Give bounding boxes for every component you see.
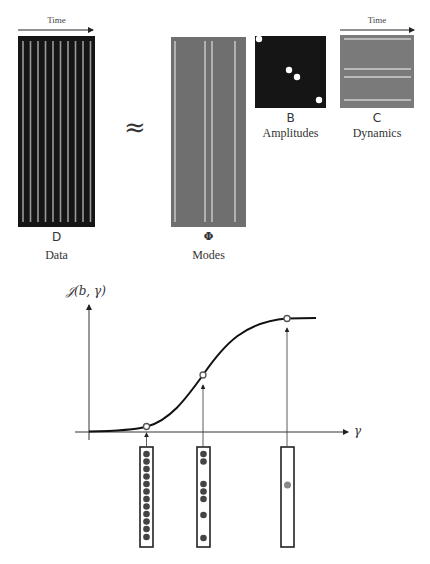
amplitude-vector-medium xyxy=(197,447,210,547)
amplitudes-caption: Amplitudes xyxy=(250,126,331,141)
y-axis-label: 𝒥(b, γ) xyxy=(66,284,106,298)
amplitude-vector-sparse xyxy=(281,447,294,547)
data-matrix xyxy=(18,30,95,227)
diagram-canvas xyxy=(0,0,430,564)
amplitude-vector-dense xyxy=(140,447,153,547)
curve-point-low xyxy=(144,424,150,430)
dynamics-matrix xyxy=(340,30,414,108)
amplitude-dot xyxy=(294,74,300,80)
tradeoff-plot xyxy=(75,305,348,547)
approx-symbol: ≈ xyxy=(118,112,152,142)
data-caption: Data xyxy=(18,248,95,263)
amplitudes-symbol: B xyxy=(255,111,326,125)
amplitude-dot xyxy=(286,67,292,73)
dynamics-time-label: Time xyxy=(340,15,414,25)
amplitude-dot xyxy=(256,36,262,42)
x-axis-label: γ xyxy=(354,424,361,438)
curve-point-high xyxy=(284,316,290,322)
dynamics-symbol: C xyxy=(340,111,414,125)
modes-caption: Modes xyxy=(171,248,246,263)
modes-symbol: Φ xyxy=(171,230,246,243)
amplitude-dot xyxy=(316,97,322,103)
curve-point-mid xyxy=(200,372,206,378)
amplitudes-matrix xyxy=(255,36,326,108)
modes-matrix xyxy=(171,37,246,227)
dynamics-caption: Dynamics xyxy=(335,126,419,141)
data-time-label: Time xyxy=(18,15,95,25)
data-symbol: D xyxy=(18,230,95,244)
